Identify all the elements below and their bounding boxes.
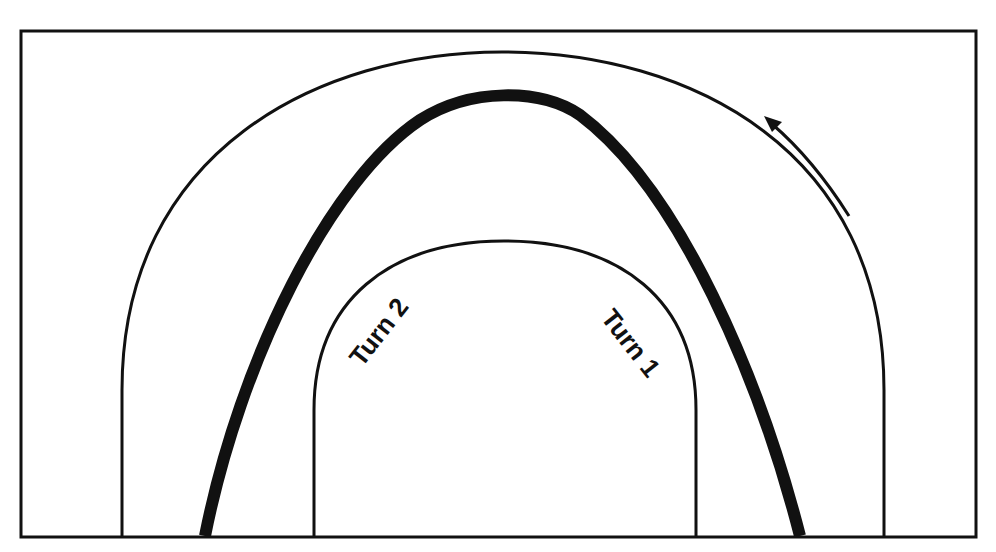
frame-border [21, 31, 976, 537]
racetrack-diagram: Turn 2 Turn 1 [0, 0, 996, 552]
turn1-label: Turn 1 [595, 303, 666, 383]
turn2-label: Turn 2 [343, 292, 414, 372]
direction-arrow-icon [764, 116, 849, 216]
racing-line [205, 95, 800, 536]
inner-track-wall [314, 241, 696, 536]
